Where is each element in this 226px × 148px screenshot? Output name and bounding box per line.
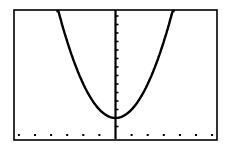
x-tick-dot xyxy=(18,134,20,136)
x-tick-dot xyxy=(131,134,133,136)
x-tick-dot xyxy=(34,134,36,136)
x-tick-dot xyxy=(50,134,52,136)
x-tick-dot xyxy=(147,134,149,136)
x-tick-dot xyxy=(179,134,181,136)
x-tick-dot xyxy=(82,134,84,136)
graph-screen xyxy=(0,0,226,148)
x-tick-dot xyxy=(98,134,100,136)
function-plot xyxy=(0,0,226,148)
x-tick-dot xyxy=(195,134,197,136)
y-axis xyxy=(116,10,119,139)
x-tick-dot xyxy=(163,134,165,136)
x-tick-dot xyxy=(211,134,213,136)
x-tick-dot xyxy=(66,134,68,136)
